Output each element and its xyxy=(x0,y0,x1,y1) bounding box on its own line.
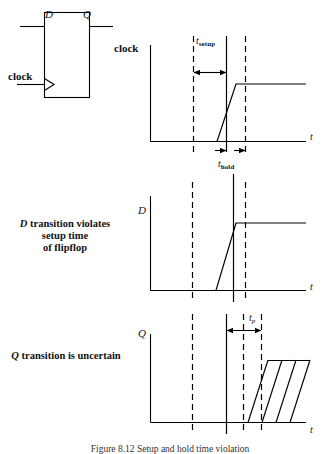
q-uncertain-transition-fan xyxy=(248,360,310,423)
setup-violation-caption: D transition violatessetup timeof flipfl… xyxy=(6,218,124,253)
uncertain-transition-caption: Q transition is uncertain xyxy=(4,350,128,362)
flipflop-symbol xyxy=(17,13,113,98)
setup-caption-line2: setup time xyxy=(42,230,88,241)
panel-q xyxy=(151,314,311,434)
uncertain-caption-symbol: Q xyxy=(11,350,19,361)
tsetup-subscript: setup xyxy=(199,40,215,48)
figure-root: D Q clock clock tsetup t D thold t D tra… xyxy=(0,0,325,454)
clock-axis-label: clock xyxy=(114,42,138,54)
setup-caption-line1: transition violates xyxy=(27,218,110,229)
tp-label: tp xyxy=(249,312,255,325)
tp-subscript: p xyxy=(252,317,256,325)
uncertain-caption-line1: transition is uncertain xyxy=(19,350,121,361)
d-waveform-trace xyxy=(151,223,307,291)
q-axis-label: Q xyxy=(138,327,146,339)
clock-waveform-trace xyxy=(151,84,307,142)
flipflop-q-port-label: Q xyxy=(83,8,91,20)
d-axis-label: D xyxy=(138,204,146,216)
clock-time-axis-label: t xyxy=(310,131,313,142)
thold-subscript: hold xyxy=(221,163,235,171)
flipflop-body xyxy=(45,13,90,98)
setup-caption-line3: of flipflop xyxy=(43,242,87,253)
clock-edge-triangle-icon xyxy=(45,79,55,91)
d-time-axis-label: t xyxy=(310,281,313,292)
flipflop-d-port-label: D xyxy=(45,8,53,20)
tsetup-label: tsetup xyxy=(196,35,215,48)
q-time-axis-label: t xyxy=(310,424,313,435)
figure-caption: Figure 8.12 Setup and hold time violatio… xyxy=(30,444,310,454)
flipflop-clock-label: clock xyxy=(8,70,32,82)
panel-d xyxy=(151,174,307,302)
thold-label: thold xyxy=(218,158,234,171)
panel-clock xyxy=(151,36,307,152)
